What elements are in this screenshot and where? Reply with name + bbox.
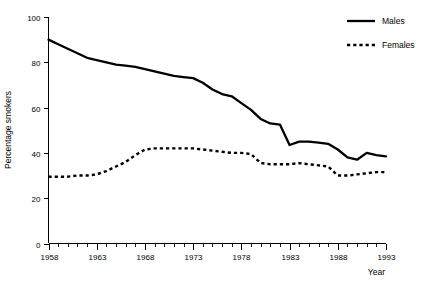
x-tick-label: 1968 [137, 253, 155, 262]
x-tick-label: 1993 [378, 253, 396, 262]
chart-legend: Males Females [347, 16, 415, 50]
y-tick-label: 80 [32, 59, 41, 68]
y-tick-label: 40 [32, 150, 41, 159]
x-tick-label: 1963 [89, 253, 107, 262]
chart-svg: 020406080100 195819631968197319781983198… [0, 0, 423, 290]
y-tick-label: 60 [32, 105, 41, 114]
x-axis-major-ticks [50, 244, 387, 250]
y-axis-ticks [44, 18, 49, 245]
x-tick-label: 1958 [41, 253, 59, 262]
smoking-prevalence-chart: 020406080100 195819631968197319781983198… [0, 0, 423, 290]
legend-label-males: Males [382, 16, 405, 26]
y-axis-tick-labels: 020406080100 [27, 14, 41, 250]
y-axis-title: Percentage smokers [3, 91, 13, 169]
x-tick-label: 1978 [233, 253, 251, 262]
legend-label-females: Females [382, 40, 415, 50]
x-axis-tick-labels: 19581963196819731978198319881993 [41, 253, 396, 262]
y-tick-label: 20 [32, 195, 41, 204]
x-tick-label: 1983 [282, 253, 300, 262]
x-axis-title: Year [368, 267, 385, 277]
x-tick-label: 1988 [330, 253, 348, 262]
y-tick-label: 0 [36, 241, 41, 250]
series-line-females [49, 148, 387, 176]
x-tick-label: 1973 [185, 253, 203, 262]
y-tick-label: 100 [27, 14, 41, 23]
series-line-males [49, 40, 387, 160]
